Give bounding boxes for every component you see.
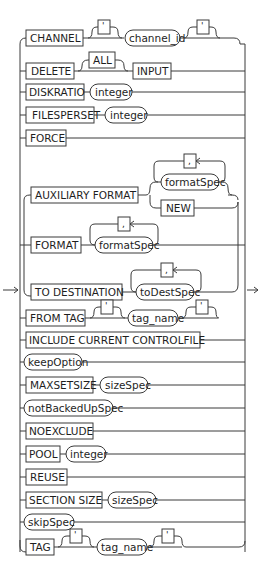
quote-label: ' [201, 21, 203, 31]
option-maxsetsize: MAXSETSIZE sizeSpec [20, 377, 245, 393]
keyword-include-current-controlfile-label: INCLUDE CURRENT CONTROLFILE [29, 334, 205, 346]
option-pool: POOL integer [20, 446, 245, 462]
sizespec-label: sizeSpec [105, 379, 151, 391]
comma-label: , [122, 219, 125, 229]
keyword-maxsetsize-label: MAXSETSIZE [30, 379, 97, 391]
option-force: FORCE [20, 130, 245, 146]
option-notbackedupspec: notBackedUpSpec [20, 400, 245, 416]
quote-label: ' [200, 301, 202, 311]
keyword-tag-label: TAG [29, 541, 51, 553]
todestspec-label: toDestSpec [140, 286, 200, 298]
option-keepoption: keepOption [20, 354, 245, 370]
option-skipspec: skipSpec [20, 514, 245, 530]
quote-label: ' [105, 301, 107, 311]
keyword-filesperset-label: FILESPERSET [32, 109, 101, 121]
option-section-size: SECTION SIZE sizeSpec [20, 492, 245, 508]
channel-id-label: channel_id [129, 32, 185, 45]
quote-label: ' [74, 530, 76, 540]
comma-label: , [165, 265, 168, 275]
keyword-section-size-label: SECTION SIZE [29, 494, 102, 506]
keepoption-label: keepOption [28, 356, 88, 368]
keyword-to-destination-label: TO DESTINATION [34, 286, 124, 298]
format-destination-group: AUXILIARY FORMAT formatSpec , NEW FORMAT… [20, 154, 245, 300]
keyword-noexclude-label: NOEXCLUDE [29, 425, 93, 437]
option-diskratio: DISKRATIO integer [20, 84, 245, 100]
option-from-tag: FROM TAG ' tag_name ' [20, 300, 219, 326]
entry-arrow-icon [3, 287, 18, 293]
syntax-diagram: CHANNEL ' channel_id ' DELETE ALL INPUT … [0, 0, 261, 564]
keyword-from-tag-label: FROM TAG [30, 312, 85, 324]
tag-name-label: tag_name [101, 541, 153, 554]
keyword-force-label: FORCE [30, 132, 65, 144]
keyword-channel-label: CHANNEL [30, 32, 81, 44]
keyword-new-label: NEW [166, 202, 191, 214]
keyword-diskratio-label: DISKRATIO [29, 86, 85, 98]
option-delete: DELETE ALL INPUT [20, 52, 245, 79]
integer-label: integer [70, 448, 108, 460]
integer-label: integer [110, 109, 148, 121]
keyword-format-label: FORMAT [35, 239, 79, 251]
integer-label: integer [95, 86, 133, 98]
formatspec-label: formatSpec [165, 176, 226, 188]
quote-label: ' [102, 21, 104, 31]
exit-arrow-icon [247, 287, 258, 293]
notbackedupspec-label: notBackedUpSpec [28, 402, 124, 414]
sizespec-label: sizeSpec [112, 494, 158, 506]
comma-label: , [188, 156, 191, 166]
option-tag: TAG ' tag_name ' [20, 529, 245, 555]
quote-label: ' [166, 530, 168, 540]
keyword-input-label: INPUT [137, 65, 169, 77]
option-noexclude: NOEXCLUDE [20, 423, 245, 439]
formatspec-label: formatSpec [99, 239, 160, 251]
keyword-delete-label: DELETE [31, 65, 71, 77]
skipspec-label: skipSpec [28, 516, 75, 528]
keyword-all-label: ALL [93, 54, 112, 66]
option-include-current-controlfile: INCLUDE CURRENT CONTROLFILE [20, 332, 245, 348]
keyword-pool-label: POOL [29, 448, 58, 460]
option-reuse: REUSE [20, 469, 245, 485]
keyword-auxiliary-format-label: AUXILIARY FORMAT [35, 189, 137, 201]
keyword-reuse-label: REUSE [30, 471, 65, 483]
option-channel: CHANNEL ' channel_id ' [20, 20, 245, 46]
tag-name-label: tag_name [132, 312, 184, 325]
option-filesperset: FILESPERSET integer [20, 107, 245, 123]
